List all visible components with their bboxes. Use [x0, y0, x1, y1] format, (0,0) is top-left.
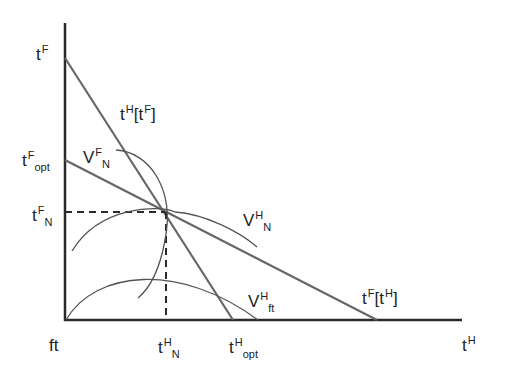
reaction-line-F	[65, 160, 377, 320]
label-base: t	[462, 336, 467, 355]
label-base: t	[120, 105, 125, 124]
x-axis-label: tH	[462, 335, 476, 354]
label-close: ]	[151, 105, 156, 124]
label-bracket: [t	[134, 105, 143, 124]
x-tick-tH-opt: tHopt	[229, 337, 258, 360]
label-VH-N: VHN	[243, 210, 271, 233]
label-sup: F	[95, 146, 102, 158]
label-base: t	[158, 338, 163, 357]
label-sub: N	[102, 158, 110, 170]
label-bracket-sup: F	[144, 103, 151, 115]
y-tick-tF-opt: tFopt	[22, 150, 50, 173]
x-tick-tH-N: tHN	[158, 337, 180, 360]
label-VH-ft: VHft	[248, 291, 274, 314]
label-sup: H	[260, 290, 268, 302]
reaction-line-H	[65, 58, 233, 320]
origin-label: ft	[49, 337, 58, 354]
label-sup: H	[126, 103, 134, 115]
label-base: V	[248, 292, 259, 311]
label-base: t	[32, 206, 37, 225]
iso-curve-VF-N	[116, 150, 167, 298]
label-sub: opt	[34, 161, 49, 173]
y-tick-tF-N: tFN	[32, 205, 52, 228]
label-sub: ft	[268, 302, 274, 314]
label-sup: F	[28, 149, 35, 161]
label-bracket: [t	[374, 289, 383, 308]
label-base: t	[362, 289, 367, 308]
label-sub: N	[172, 348, 180, 360]
y-axis-label: tF	[36, 44, 48, 63]
label-reaction-H: tH[tF]	[120, 104, 156, 123]
label-base: V	[243, 211, 254, 230]
label-sub: N	[263, 221, 271, 233]
label-bracket-sup: H	[385, 287, 393, 299]
label-base: t	[36, 45, 41, 64]
label-base: V	[83, 148, 94, 167]
diagram-canvas	[0, 0, 507, 374]
label-sup: F	[38, 204, 45, 216]
label-close: ]	[393, 289, 398, 308]
label-sup: H	[255, 209, 263, 221]
label-sup: H	[235, 336, 243, 348]
label-base: t	[22, 151, 27, 170]
label-sub: N	[44, 216, 52, 228]
label-sub: opt	[243, 348, 258, 360]
label-sup: H	[164, 336, 172, 348]
label-base: t	[229, 338, 234, 357]
label-reaction-F: tF[tH]	[362, 288, 398, 307]
label-VF-N: VFN	[83, 147, 110, 170]
label-sup: H	[468, 334, 476, 346]
label-sup: F	[42, 43, 49, 55]
